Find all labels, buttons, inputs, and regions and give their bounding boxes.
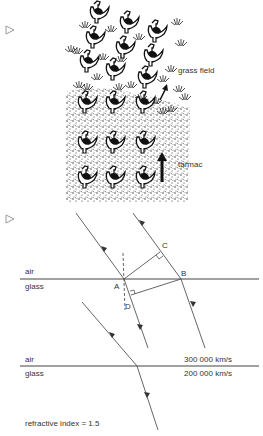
glass-label: glass	[25, 282, 44, 291]
glass-label-lower: glass	[25, 369, 44, 378]
incident-ray-a	[76, 213, 124, 279]
air-speed-label: 300 000 km/s	[184, 355, 232, 364]
point-c-label: C	[162, 241, 168, 250]
point-d-label: D	[125, 302, 131, 311]
grass-field-label: grass field	[178, 66, 214, 75]
air-label-lower: air	[25, 355, 34, 364]
incident-ray-lower	[82, 302, 137, 366]
glass-speed-label: 200 000 km/s	[184, 369, 232, 378]
point-a-label: A	[114, 282, 120, 291]
triangle-bullet-icon	[5, 214, 15, 224]
arrow-up-icon	[160, 84, 168, 100]
tarmac-label: tarmac	[178, 160, 202, 169]
wavefront-ac	[124, 252, 160, 279]
normal-line	[123, 253, 125, 310]
refractive-index-label: refractive index = 1.5	[25, 419, 99, 428]
refracted-ray-a	[124, 279, 148, 348]
refracted-ray-b	[181, 279, 205, 348]
refracted-ray-lower	[137, 366, 158, 430]
point-b-label: B	[181, 269, 186, 278]
air-label: air	[25, 267, 34, 276]
incident-ray-b	[133, 213, 181, 279]
wavefront-bd	[131, 279, 181, 295]
grass-tarmac-illustration	[0, 0, 263, 210]
marchers-on-grass	[80, 1, 167, 88]
